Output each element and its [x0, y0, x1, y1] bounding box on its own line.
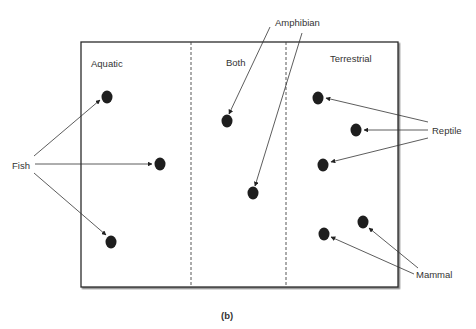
callout-label-mammal: Mammal: [416, 269, 452, 280]
animal-dot-amphibian: [222, 115, 233, 128]
zone-label: Both: [226, 57, 246, 68]
animal-dot-amphibian: [248, 187, 259, 200]
animal-dot-reptile: [313, 92, 324, 105]
habitat-diagram: AquaticBothTerrestrial FishAmphibianRept…: [0, 0, 476, 329]
animal-dot-fish: [106, 236, 117, 249]
animal-dot-mammal: [358, 216, 369, 229]
animal-dot-fish: [102, 91, 113, 104]
habitat-box: [81, 42, 398, 287]
figure-caption: (b): [221, 310, 233, 321]
animal-dot-fish: [155, 158, 166, 171]
zone-label: Terrestrial: [330, 53, 372, 64]
animal-dot-reptile: [318, 159, 329, 172]
zone-label: Aquatic: [91, 58, 123, 69]
callout-label-amphibian: Amphibian: [275, 17, 320, 28]
animal-dot-mammal: [319, 228, 330, 241]
callout-label-reptile: Reptile: [432, 125, 462, 136]
animal-dot-reptile: [351, 124, 362, 137]
callout-label-fish: Fish: [12, 160, 30, 171]
